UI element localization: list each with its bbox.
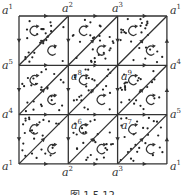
dot (108, 49, 110, 51)
dot (87, 69, 89, 71)
orientation-arrow-icon (152, 143, 156, 147)
edge-arrow-icon (143, 14, 147, 18)
edge-arrow-icon (44, 63, 48, 67)
dot (32, 77, 34, 79)
vertex-label-l1: a5 (2, 59, 13, 71)
dot (79, 41, 81, 43)
dot (136, 120, 138, 122)
orientation-arrow-icon (36, 123, 40, 127)
dot (76, 99, 78, 101)
dot (78, 96, 80, 98)
edge-arrow-icon (115, 39, 119, 43)
dot (62, 26, 64, 28)
dot (88, 89, 90, 91)
dot (55, 122, 57, 124)
dot (41, 28, 43, 30)
dot (26, 102, 28, 104)
dot (94, 141, 96, 143)
edge-arrow-icon (17, 39, 21, 43)
orientation-arrow-icon (135, 74, 139, 78)
dot (120, 29, 122, 31)
dot (130, 41, 132, 43)
edge-arrow-icon (44, 14, 48, 18)
edge-arrow-icon (93, 14, 97, 18)
edge-arrow-icon (17, 137, 21, 141)
edge-arrow-icon (115, 88, 119, 92)
dot (28, 61, 30, 63)
dot (80, 94, 82, 96)
vertex-label-t1: a2 (62, 2, 73, 14)
dot (140, 78, 142, 80)
dot (132, 160, 134, 162)
dot (104, 58, 106, 60)
dot (45, 32, 47, 34)
dot (88, 77, 90, 79)
dot (161, 56, 163, 58)
dot (25, 120, 27, 122)
dot (31, 129, 33, 131)
edge-arrow-icon (44, 162, 48, 166)
dot (153, 97, 155, 99)
orientation-arrow-icon (54, 93, 58, 97)
edge-arrow-icon (143, 112, 147, 116)
dot (26, 29, 28, 31)
dot (124, 136, 126, 138)
dot (148, 117, 150, 119)
dot (87, 156, 89, 158)
dot (157, 134, 159, 136)
dot (48, 120, 50, 122)
dot (52, 147, 54, 149)
dot (133, 103, 135, 105)
vertex-label-tl: a1 (2, 4, 13, 16)
dot (32, 109, 34, 111)
vertex-label-l2: a4 (2, 108, 13, 120)
dot (144, 58, 146, 60)
dot (96, 158, 98, 160)
dot (132, 59, 134, 61)
dot (156, 50, 158, 52)
dot (127, 18, 129, 20)
dot (138, 77, 140, 79)
dot (99, 40, 101, 42)
edge-arrow-icon (143, 162, 147, 166)
dot (149, 49, 151, 51)
vertex-label-i7: a7 (121, 119, 132, 131)
dot (60, 79, 62, 81)
dot (72, 132, 74, 134)
dot (156, 121, 158, 123)
dot (94, 57, 96, 59)
dot (33, 138, 35, 140)
dot (161, 151, 163, 153)
dot (107, 69, 109, 71)
orientation-arrow-icon (103, 93, 107, 97)
vertex-label-i6: a6 (71, 119, 82, 131)
edge-arrow-icon (165, 39, 169, 43)
dot (24, 117, 26, 119)
dot (22, 143, 24, 145)
dot (121, 89, 123, 91)
dot (146, 21, 148, 23)
dot (36, 157, 38, 159)
dot (140, 25, 142, 27)
dot (139, 105, 141, 107)
dot (21, 83, 23, 85)
dot (22, 123, 24, 125)
edge-arrow-icon (66, 39, 70, 43)
dot (42, 135, 44, 137)
dot (100, 25, 102, 27)
dot (104, 147, 106, 149)
dot (89, 21, 91, 23)
dot (94, 61, 96, 63)
dot (139, 18, 141, 20)
vertex-label-br: a1 (170, 160, 181, 172)
dot (109, 36, 111, 38)
vertex-label-b1: a2 (62, 166, 73, 178)
dot (92, 48, 94, 50)
orientation-arrow-icon (152, 44, 156, 48)
edge-arrow-icon (115, 137, 119, 141)
dot (21, 149, 23, 151)
dot (142, 108, 144, 110)
dot (40, 86, 42, 88)
dot (105, 85, 107, 87)
dot (33, 52, 35, 54)
